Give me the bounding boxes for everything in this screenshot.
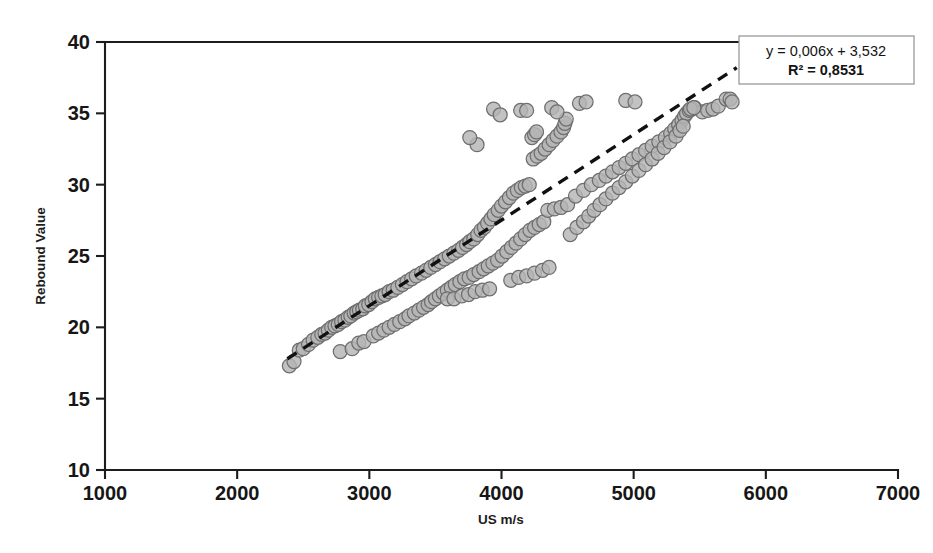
y-tick-label: 30 xyxy=(68,174,90,196)
regression-equation-text: y = 0,006x + 3,532 xyxy=(766,43,886,59)
data-point xyxy=(550,105,564,119)
scatter-markers xyxy=(282,92,739,373)
x-tick-label: 5000 xyxy=(611,482,656,504)
y-axis-title: Rebound Value xyxy=(33,207,48,305)
trendline xyxy=(287,68,736,359)
r-squared-text: R² = 0,8531 xyxy=(788,62,864,78)
data-point xyxy=(483,282,497,296)
y-tick-label: 15 xyxy=(68,388,90,410)
x-axis-ticks: 1000200030004000500060007000 xyxy=(83,470,921,504)
data-point xyxy=(522,178,536,192)
data-point xyxy=(676,119,690,133)
data-point xyxy=(542,260,556,274)
x-tick-label: 2000 xyxy=(215,482,260,504)
x-tick-label: 1000 xyxy=(83,482,128,504)
y-tick-label: 40 xyxy=(68,31,90,53)
data-point xyxy=(493,108,507,122)
y-tick-label: 25 xyxy=(68,245,90,267)
y-tick-label: 35 xyxy=(68,102,90,124)
chart-canvas: 10152025303540 1000200030004000500060007… xyxy=(0,0,933,553)
data-point xyxy=(579,95,593,109)
x-tick-label: 4000 xyxy=(479,482,524,504)
data-point xyxy=(628,95,642,109)
x-axis-title: US m/s xyxy=(478,512,524,527)
y-tick-label: 10 xyxy=(68,459,90,481)
scatter-chart: 10152025303540 1000200030004000500060007… xyxy=(0,0,933,553)
x-tick-label: 3000 xyxy=(347,482,392,504)
x-tick-label: 6000 xyxy=(744,482,789,504)
y-tick-label: 20 xyxy=(68,316,90,338)
data-point xyxy=(463,131,477,145)
data-point xyxy=(725,95,739,109)
data-point xyxy=(687,101,701,115)
x-tick-label: 7000 xyxy=(876,482,921,504)
regression-legend: y = 0,006x + 3,532 R² = 0,8531 xyxy=(739,36,914,84)
data-point xyxy=(520,103,534,117)
y-axis-ticks: 10152025303540 xyxy=(68,31,105,481)
data-point xyxy=(530,125,544,139)
